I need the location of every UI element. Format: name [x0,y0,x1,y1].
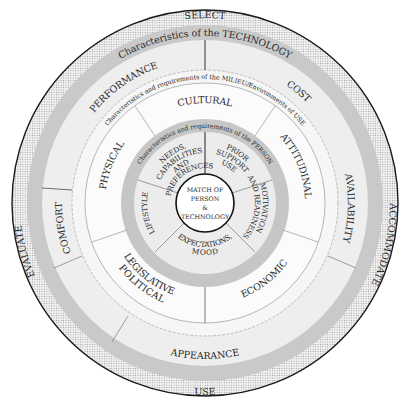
center-circle [176,174,234,232]
svg-text:MATCH OF: MATCH OF [187,186,224,193]
svg-text:TECHNOLOGY: TECHNOLOGY [181,213,230,220]
mpt-diagram: SELECT EVALUATE ACCOMMODATE USE Characte… [0,0,410,401]
action-use-label: USE [194,386,216,397]
svg-text:PERSON: PERSON [191,195,220,202]
action-select-label: SELECT [184,9,227,21]
svg-text:&: & [202,204,208,211]
